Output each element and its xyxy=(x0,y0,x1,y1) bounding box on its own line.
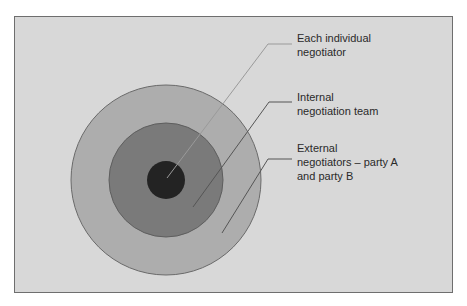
label-line: negotiator xyxy=(297,45,371,59)
label-line: negotiation team xyxy=(297,104,378,118)
inner-circle-individual-negotiator xyxy=(147,161,185,199)
label-external-negotiators: External negotiators – party A and party… xyxy=(297,141,398,183)
label-line: External xyxy=(297,141,398,155)
label-individual-negotiator: Each individual negotiator xyxy=(297,31,371,59)
label-internal-team: Internal negotiation team xyxy=(297,90,378,118)
label-line: and party B xyxy=(297,169,398,183)
label-line: Each individual xyxy=(297,31,371,45)
label-line: negotiators – party A xyxy=(297,155,398,169)
label-line: Internal xyxy=(297,90,378,104)
